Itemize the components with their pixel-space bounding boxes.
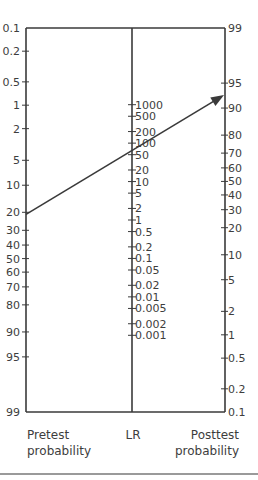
- arrowhead-icon: [210, 95, 224, 106]
- posttest-tick-label: 60: [228, 162, 242, 175]
- posttest-tick-label: 80: [228, 129, 242, 142]
- pretest-tick-label: 2: [13, 123, 20, 136]
- lr-tick-label: 0.001: [135, 329, 167, 342]
- posttest-tick-label: 1: [228, 329, 235, 342]
- posttest-axis-title: probability: [175, 444, 239, 458]
- posttest-tick-label: 0.5: [228, 352, 246, 365]
- posttest-tick-label: 5: [228, 274, 235, 287]
- pretest-tick-label: 99: [6, 406, 20, 419]
- pretest-tick-label: 20: [6, 206, 20, 219]
- pretest-tick-label: 95: [6, 351, 20, 364]
- posttest-tick-label: 20: [228, 222, 242, 235]
- pretest-tick-label: 1: [13, 99, 20, 112]
- posttest-tick-label: 70: [228, 147, 242, 160]
- pretest-tick-label: 0.5: [3, 76, 21, 89]
- pretest-tick-label: 50: [6, 253, 20, 266]
- lr-tick-label: 0.005: [135, 302, 167, 315]
- nomogram-frame: [26, 28, 225, 412]
- posttest-tick-label: 10: [228, 249, 242, 262]
- lr-tick-label: 5: [135, 187, 142, 200]
- lr-tick-label: 0.05: [135, 264, 160, 277]
- pretest-tick-label: 10: [6, 179, 20, 192]
- pretest-axis-title: Pretest: [27, 428, 69, 442]
- lr-tick-label: 500: [135, 110, 156, 123]
- pretest-tick-label: 80: [6, 299, 20, 312]
- posttest-tick-label: 30: [228, 204, 242, 217]
- posttest-tick-label: 0.1: [228, 406, 246, 419]
- pretest-tick-label: 30: [6, 224, 20, 237]
- posttest-tick-label: 90: [228, 102, 242, 115]
- pretest-tick-label: 0.1: [3, 22, 21, 35]
- posttest-axis-title: Posttest: [191, 428, 239, 442]
- example-line-group: [26, 95, 224, 214]
- bottom-divider: [0, 473, 258, 475]
- pretest-axis-ticks: 0.10.20.51251020304050607080909599: [3, 22, 30, 419]
- pretest-tick-label: 0.2: [3, 45, 21, 58]
- fagan-nomogram: 0.10.20.51251020304050607080909599 10005…: [0, 0, 258, 480]
- axis-titles: PretestprobabilityLRPosttestprobability: [27, 428, 239, 458]
- posttest-tick-label: 2: [228, 305, 235, 318]
- lr-axis-ticks: 10005002001005020105210.50.20.10.050.020…: [128, 99, 167, 343]
- lr-axis-title: LR: [125, 428, 140, 442]
- lr-tick-label: 50: [135, 149, 149, 162]
- posttest-tick-label: 50: [228, 175, 242, 188]
- example-line: [26, 100, 216, 214]
- posttest-tick-label: 99: [228, 22, 242, 35]
- pretest-tick-label: 60: [6, 266, 20, 279]
- posttest-tick-label: 95: [228, 77, 242, 90]
- lr-tick-label: 0.5: [135, 226, 153, 239]
- pretest-tick-label: 5: [13, 154, 20, 167]
- posttest-tick-label: 40: [228, 189, 242, 202]
- posttest-tick-label: 0.2: [228, 383, 246, 396]
- pretest-axis-title: probability: [27, 444, 91, 458]
- pretest-tick-label: 40: [6, 239, 20, 252]
- pretest-tick-label: 90: [6, 326, 20, 339]
- pretest-tick-label: 70: [6, 281, 20, 294]
